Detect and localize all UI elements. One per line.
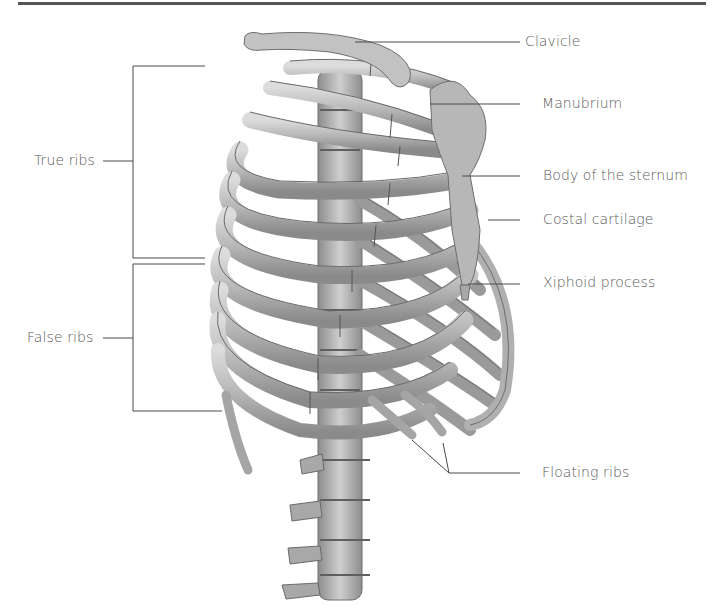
label-true-ribs: True ribs — [34, 152, 95, 168]
spine — [282, 70, 370, 600]
label-false-ribs: False ribs — [27, 329, 93, 345]
label-manubrium: Manubrium — [542, 95, 622, 111]
ribcage-illustration — [0, 0, 719, 609]
label-floating-ribs: Floating ribs — [542, 464, 629, 480]
label-body-of-sternum: Body of the sternum — [543, 167, 688, 183]
label-clavicle: Clavicle — [525, 33, 580, 49]
label-costal-cartilage: Costal cartilage — [543, 211, 654, 227]
label-xiphoid-process: Xiphoid process — [543, 274, 655, 290]
